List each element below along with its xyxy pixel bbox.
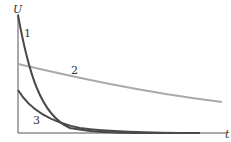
energy-decay-chart: U t 1 2 3 [0, 0, 231, 142]
curve-3 [18, 90, 200, 133]
curve-2-label: 2 [71, 64, 78, 77]
curve-3-label: 3 [33, 114, 40, 127]
x-axis-label: t [225, 128, 230, 141]
curve-2 [18, 64, 222, 102]
curve-1-label: 1 [24, 27, 31, 40]
y-axis-label: U [13, 3, 23, 16]
